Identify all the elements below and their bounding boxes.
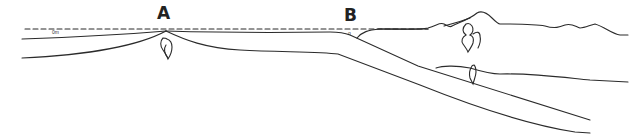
continental-bottom [436,66,628,82]
continental-top [378,12,628,35]
label-a: A [157,3,170,23]
label-b: B [344,5,357,25]
tectonic-diagram [0,0,644,140]
sea-level-label: 0m [52,29,59,35]
left-plate-bottom [22,31,166,58]
right-plate-top [166,31,590,120]
mountain-ridge [444,18,470,26]
trench-wedge [357,29,428,38]
trench-label: o [348,30,351,36]
magma-chamber-c1 [462,23,473,52]
right-plate-bottom [166,31,590,133]
magma-chamber-c2 [473,32,480,48]
magma-chamber-lower [470,65,476,84]
left-plate-top [22,31,166,39]
magma-chamber-a-inner [165,45,168,58]
